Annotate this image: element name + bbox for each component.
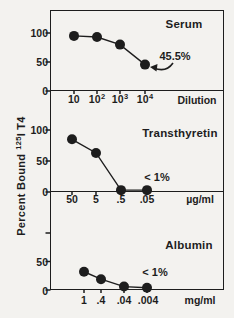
transthyretin-annotation: < 1% xyxy=(144,171,169,183)
x-tick-label: 104 xyxy=(137,93,153,105)
x-tick-label: 102 xyxy=(89,93,105,105)
transthyretin-x-unit: µg/ml xyxy=(186,193,214,205)
serum-annotation: 45.5% xyxy=(159,50,190,62)
tick-sup: 3 xyxy=(124,92,128,101)
x-tick-label: .04 xyxy=(117,294,132,306)
tick-text: 50 xyxy=(66,193,78,205)
tick-text: .004 xyxy=(138,294,158,306)
transthyretin-panel-title: Transthyretin xyxy=(142,127,217,139)
transthyretin-x-axis xyxy=(50,191,224,193)
tick-sup: 4 xyxy=(149,92,153,101)
tick-text: .4 xyxy=(97,294,106,306)
tick-text: .05 xyxy=(140,193,155,205)
tick-text: .5 xyxy=(117,193,126,205)
x-tick-label: .05 xyxy=(140,193,155,205)
albumin-annotation: < 1% xyxy=(142,266,167,278)
tick-text: .04 xyxy=(117,294,132,306)
y-tick-label: 50 xyxy=(14,155,48,167)
albumin-x-unit: mg/ml xyxy=(185,294,216,306)
y-tick-label: 100 xyxy=(14,27,48,39)
x-tick-label: 10 xyxy=(68,93,80,105)
y-tick-label: 50 xyxy=(14,256,48,268)
isotope-superscript: 125 xyxy=(14,136,23,149)
tick-text: 10 xyxy=(89,93,101,105)
x-tick-label: 103 xyxy=(112,93,128,105)
tick-text: 10 xyxy=(137,93,149,105)
albumin-panel-title: Albumin xyxy=(165,239,212,251)
x-tick-label: .5 xyxy=(117,193,126,205)
y-tick-label: 0 xyxy=(14,285,48,297)
y-tick-label: 0 xyxy=(14,186,48,198)
serum-x-unit: Dilution xyxy=(177,94,216,106)
x-tick-label: .4 xyxy=(97,294,106,306)
tick-text: 10 xyxy=(68,93,80,105)
x-tick-label: .004 xyxy=(138,294,158,306)
y-tick-label: 100 xyxy=(14,124,48,136)
figure-canvas: Percent Bound 125I T4 Serum Transthyreti… xyxy=(0,0,234,318)
x-tick-label: 1 xyxy=(81,294,87,306)
tick-text: 1 xyxy=(81,294,87,306)
tick-text: 5 xyxy=(93,193,99,205)
x-tick-label: 50 xyxy=(66,193,78,205)
serum-x-axis xyxy=(50,90,224,92)
x-tick-label: 5 xyxy=(93,193,99,205)
serum-panel-title: Serum xyxy=(166,18,203,30)
tick-sup: 2 xyxy=(101,92,105,101)
tick-text: 10 xyxy=(112,93,124,105)
y-tick-label: 0 xyxy=(14,85,48,97)
y-tick-label: 50 xyxy=(14,56,48,68)
